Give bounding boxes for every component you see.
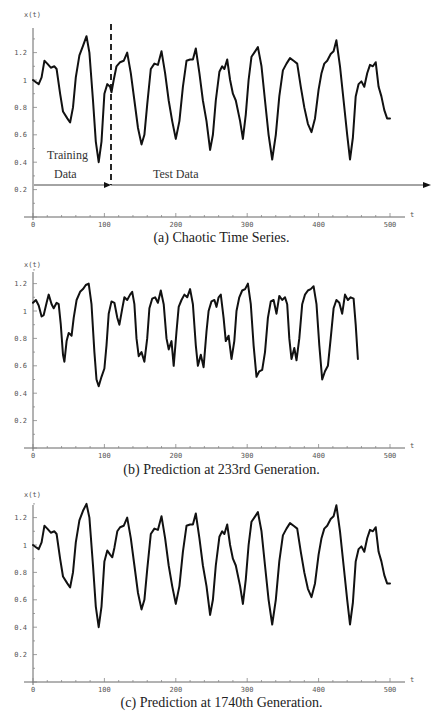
- series-line: [33, 504, 390, 627]
- x-tick-label: 100: [98, 686, 111, 694]
- chart-panel-b: x(t) t 01002003004005000.20.40.60.811.2 …: [0, 250, 443, 485]
- x-tick-label: 500: [384, 452, 397, 460]
- x-tick-label: 200: [169, 686, 182, 694]
- x-tick-label: 400: [312, 452, 325, 460]
- y-tick-label: 0.4: [14, 159, 27, 167]
- y-tick-label: 0.6: [14, 362, 27, 370]
- chart-panel-c: x(t) t 01002003004005000.20.40.60.811.2 …: [0, 485, 443, 720]
- x-tick-label: 200: [169, 221, 182, 229]
- x-tick-label: 0: [31, 221, 35, 229]
- x-tick-label: 500: [384, 221, 397, 229]
- x-tick-label: 400: [312, 221, 325, 229]
- test-arrowhead-icon: [423, 182, 431, 188]
- x-axis-label: t: [410, 676, 414, 684]
- x-tick-label: 0: [31, 452, 35, 460]
- x-axis-label: t: [410, 442, 414, 450]
- x-axis-label: t: [410, 211, 414, 219]
- series-line: [33, 36, 390, 162]
- caption-a: (a) Chaotic Time Series.: [0, 230, 443, 246]
- training-label-line2: Data: [54, 167, 77, 181]
- y-tick-label: 1.2: [14, 514, 27, 522]
- y-tick-label: 1.2: [14, 280, 27, 288]
- y-axis-label: x(t): [24, 491, 41, 499]
- y-tick-label: 0.2: [14, 651, 27, 659]
- x-tick-label: 300: [241, 221, 254, 229]
- x-tick-label: 100: [98, 452, 111, 460]
- test-data-label: Test Data: [153, 167, 199, 181]
- x-tick-label: 400: [312, 686, 325, 694]
- x-tick-label: 0: [31, 686, 35, 694]
- y-tick-label: 0.4: [14, 624, 27, 632]
- y-tick-label: 0.8: [14, 104, 27, 112]
- y-tick-label: 0.8: [14, 335, 27, 343]
- x-tick-label: 100: [98, 221, 111, 229]
- chart-c-plot: x(t) t 01002003004005000.20.40.60.811.2: [0, 485, 443, 700]
- x-tick-label: 200: [169, 452, 182, 460]
- y-tick-label: 0.4: [14, 390, 27, 398]
- y-tick-label: 0.2: [14, 417, 27, 425]
- caption-c: (c) Prediction at 1740th Generation.: [0, 695, 443, 711]
- training-arrowhead-icon: [104, 182, 111, 188]
- series-line: [33, 284, 358, 387]
- x-tick-label: 300: [241, 452, 254, 460]
- chart-b-plot: x(t) t 01002003004005000.20.40.60.811.2: [0, 250, 443, 465]
- y-tick-label: 1: [23, 308, 27, 316]
- y-tick-label: 0.6: [14, 131, 27, 139]
- y-tick-label: 0.8: [14, 569, 27, 577]
- chart-a-plot: x(t) t 01002003004005000.20.40.60.811.2 …: [0, 0, 443, 230]
- x-tick-label: 500: [384, 686, 397, 694]
- y-axis-label: x(t): [24, 11, 41, 19]
- y-tick-label: 1.2: [14, 49, 27, 57]
- training-label-line1: Training: [47, 148, 88, 162]
- y-tick-label: 0.2: [14, 186, 27, 194]
- y-tick-label: 1: [23, 542, 27, 550]
- chart-panel-a: x(t) t 01002003004005000.20.40.60.811.2 …: [0, 0, 443, 250]
- y-tick-label: 0.6: [14, 596, 27, 604]
- y-tick-label: 1: [23, 77, 27, 85]
- caption-b: (b) Prediction at 233rd Generation.: [0, 462, 443, 478]
- x-tick-label: 300: [241, 686, 254, 694]
- y-axis-label: x(t): [24, 261, 41, 269]
